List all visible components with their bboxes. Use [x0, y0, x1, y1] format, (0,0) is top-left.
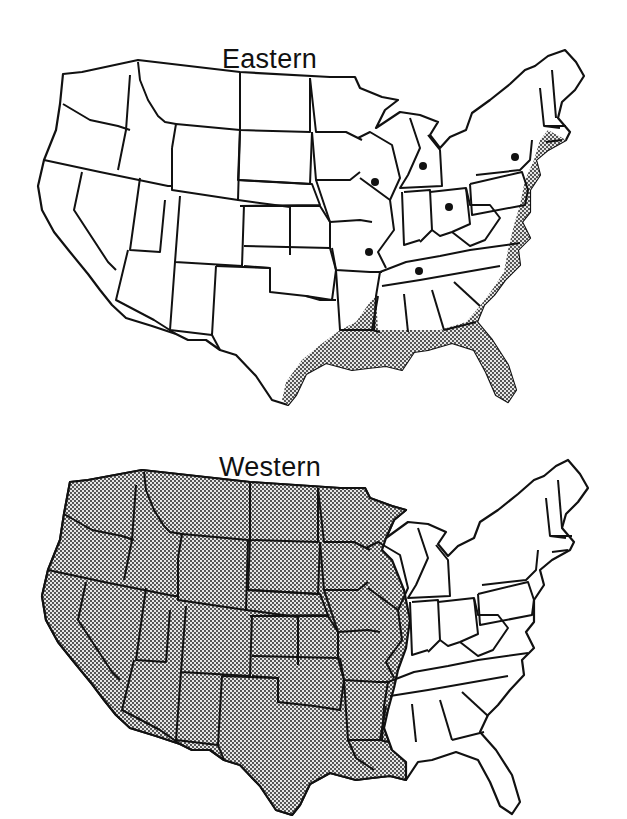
marker-new-york [511, 153, 519, 161]
marker-missouri [365, 248, 373, 256]
western-range [42, 470, 410, 815]
eastern-us-map [0, 0, 627, 420]
marker-wisconsin [371, 178, 379, 186]
marker-ohio [445, 203, 453, 211]
marker-michigan [419, 162, 427, 170]
marker-tennessee [415, 267, 423, 275]
western-us-map [0, 430, 627, 819]
western-map-panel: Western [0, 430, 627, 819]
eastern-map-panel: Eastern [0, 0, 627, 420]
